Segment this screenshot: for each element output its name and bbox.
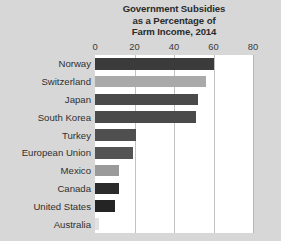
- bar-row: [95, 108, 253, 126]
- x-tick-label: 20: [129, 41, 139, 52]
- category-label: Norway: [0, 58, 91, 69]
- bar-row: [95, 55, 253, 73]
- x-tick-label: 60: [208, 41, 218, 52]
- bar: [95, 111, 196, 123]
- category-label: Japan: [0, 94, 91, 105]
- category-label: Switzerland: [0, 76, 91, 87]
- category-label: European Union: [0, 147, 91, 158]
- chart-title-line-2: as a Percentage of: [95, 15, 253, 27]
- category-label: Turkey: [0, 130, 91, 141]
- bar: [95, 218, 99, 230]
- bar-row: [95, 73, 253, 91]
- bar: [95, 129, 136, 141]
- chart-title: Government Subsidies as a Percentage of …: [95, 3, 253, 38]
- bar-row: [95, 91, 253, 109]
- bar: [95, 94, 198, 106]
- bar: [95, 147, 133, 159]
- bar-series: [95, 55, 253, 233]
- bar-row: [95, 215, 253, 233]
- bar: [95, 183, 119, 195]
- chart-figure: Government Subsidies as a Percentage of …: [0, 0, 281, 241]
- x-tick-label: 40: [169, 41, 179, 52]
- x-tick-label: 80: [248, 41, 258, 52]
- bar-row: [95, 180, 253, 198]
- category-label: South Korea: [0, 112, 91, 123]
- chart-title-line-1: Government Subsidies: [95, 3, 253, 15]
- bar: [95, 76, 206, 88]
- bar-row: [95, 126, 253, 144]
- bar: [95, 58, 214, 70]
- bar: [95, 200, 115, 212]
- plot-area: [95, 55, 254, 233]
- category-label: Australia: [0, 219, 91, 230]
- category-label: United States: [0, 201, 91, 212]
- bar-row: [95, 144, 253, 162]
- bar-row: [95, 162, 253, 180]
- chart-title-line-3: Farm Income, 2014: [95, 26, 253, 38]
- x-tick-label: 0: [92, 41, 97, 52]
- x-axis-tick-labels: 020406080: [0, 41, 281, 55]
- category-axis-labels: NorwaySwitzerlandJapanSouth KoreaTurkeyE…: [0, 55, 91, 233]
- category-label: Canada: [0, 183, 91, 194]
- bar-row: [95, 197, 253, 215]
- category-label: Mexico: [0, 165, 91, 176]
- bar: [95, 165, 119, 177]
